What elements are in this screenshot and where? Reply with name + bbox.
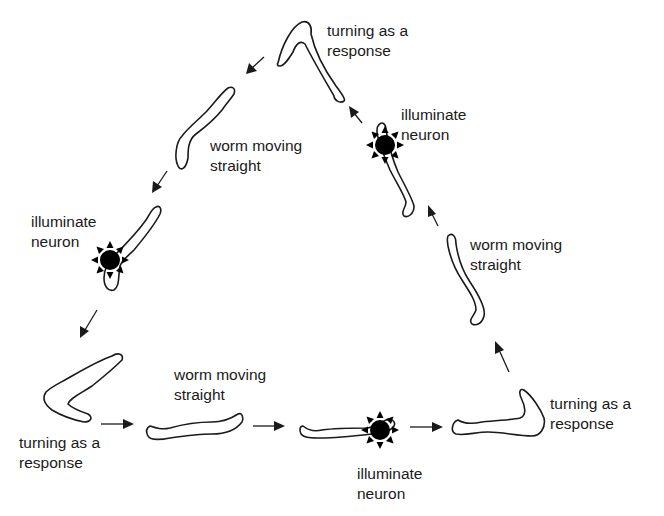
label-line-1: worm moving [470,235,562,255]
label-right-illuminate: illuminate neuron [401,105,466,145]
light-burst-icon [366,126,404,164]
label-line-1: turning as a [19,433,100,453]
light-burst-icon [91,241,129,279]
label-bottom-straight: worm moving straight [174,365,266,405]
label-line-1: turning as a [550,394,631,414]
label-bottom-illuminate: illuminate neuron [357,464,422,504]
worm-turning-bottom-right-icon [452,389,544,436]
arrow-icon [428,205,438,226]
label-line-2: straight [210,156,302,176]
arrow-icon [246,57,264,74]
label-bottom-left-turn: turning as a response [19,433,100,473]
label-left-illuminate: illuminate neuron [31,212,96,252]
arrow-icon [410,422,443,432]
arrow-icon [495,341,509,372]
arrow-icon [152,171,167,193]
light-burst-icon [361,411,399,449]
worm-response-cycle-diagram: turning as a response worm moving straig… [0,0,664,516]
worm-illuminate-left-icon [104,206,161,290]
label-line-2: neuron [357,484,422,504]
arrow-icon [101,419,134,429]
label-line-1: worm moving [210,136,302,156]
label-line-2: neuron [401,125,466,145]
label-line-2: response [19,453,100,473]
label-top-turn: turning as a response [327,21,408,61]
label-line-1: illuminate [357,464,422,484]
worm-straight-bottom-icon [147,414,243,440]
arrow-icon [80,310,97,338]
label-line-2: straight [470,255,562,275]
arrow-icon [253,421,285,431]
arrow-icon [349,106,362,123]
label-line-1: illuminate [31,212,96,232]
label-right-straight: worm moving straight [470,235,562,275]
worm-turning-bottom-left-icon [44,354,122,422]
label-line-1: worm moving [174,365,266,385]
label-line-2: straight [174,385,266,405]
label-left-straight: worm moving straight [210,136,302,176]
label-line-1: illuminate [401,105,466,125]
label-line-2: response [550,414,631,434]
label-line-2: response [327,41,408,61]
label-line-1: turning as a [327,21,408,41]
label-bottom-right-turn: turning as a response [550,394,631,434]
label-line-2: neuron [31,232,96,252]
